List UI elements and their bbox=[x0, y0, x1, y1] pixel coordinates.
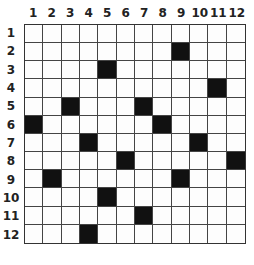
grid-cell bbox=[135, 188, 153, 206]
grid-cell bbox=[172, 79, 190, 97]
grid-cell bbox=[172, 25, 190, 43]
grid-cell bbox=[208, 25, 226, 43]
grid-cell bbox=[208, 116, 226, 134]
grid-cell bbox=[98, 116, 116, 134]
grid-cell bbox=[135, 134, 153, 152]
row-label: 4 bbox=[0, 79, 22, 97]
grid-cell bbox=[98, 25, 116, 43]
grid-cell bbox=[172, 61, 190, 79]
grid-cell bbox=[190, 61, 208, 79]
grid-cell bbox=[135, 61, 153, 79]
grid-cell bbox=[25, 61, 43, 79]
row-label: 12 bbox=[0, 226, 22, 244]
column-label: 12 bbox=[228, 4, 247, 22]
grid-cell bbox=[80, 98, 98, 116]
grid-cell bbox=[208, 170, 226, 188]
grid-cell bbox=[227, 225, 245, 243]
grid-cell bbox=[98, 152, 116, 170]
grid-cell bbox=[117, 98, 135, 116]
row-label: 7 bbox=[0, 134, 22, 152]
grid-cell bbox=[80, 152, 98, 170]
grid-cell-filled bbox=[135, 207, 153, 225]
column-label: 5 bbox=[98, 4, 117, 22]
row-labels: 123456789101112 bbox=[0, 24, 22, 244]
grid-cell bbox=[43, 43, 61, 61]
column-label: 1 bbox=[24, 4, 43, 22]
grid-cell bbox=[62, 79, 80, 97]
grid-cell bbox=[208, 225, 226, 243]
grid-cell bbox=[43, 25, 61, 43]
grid-cell bbox=[62, 25, 80, 43]
grid-cell bbox=[208, 152, 226, 170]
grid-cell bbox=[117, 207, 135, 225]
grid-cell bbox=[153, 98, 171, 116]
grid-cell bbox=[62, 170, 80, 188]
row-label: 5 bbox=[0, 97, 22, 115]
column-label: 6 bbox=[117, 4, 136, 22]
grid-cell bbox=[208, 134, 226, 152]
grid-cell bbox=[62, 207, 80, 225]
grid-cell bbox=[62, 225, 80, 243]
grid-cell bbox=[80, 188, 98, 206]
grid-cell bbox=[62, 61, 80, 79]
grid-cell bbox=[117, 79, 135, 97]
puzzle-grid bbox=[24, 24, 246, 244]
grid-cell-filled bbox=[25, 116, 43, 134]
grid-cell bbox=[153, 188, 171, 206]
grid-cell bbox=[43, 79, 61, 97]
grid-cell bbox=[80, 43, 98, 61]
grid-cell bbox=[153, 152, 171, 170]
grid-cell bbox=[80, 61, 98, 79]
grid-cell bbox=[80, 170, 98, 188]
grid-cell bbox=[98, 225, 116, 243]
grid-cell bbox=[227, 134, 245, 152]
grid-cell bbox=[190, 188, 208, 206]
grid-cell bbox=[153, 25, 171, 43]
grid-cell bbox=[25, 225, 43, 243]
column-label: 10 bbox=[191, 4, 210, 22]
grid-cell-filled bbox=[117, 152, 135, 170]
grid-cell-filled bbox=[80, 225, 98, 243]
grid-cell bbox=[190, 170, 208, 188]
grid-cell bbox=[25, 134, 43, 152]
grid-cell bbox=[153, 225, 171, 243]
grid-cell bbox=[172, 225, 190, 243]
grid-cell bbox=[227, 79, 245, 97]
grid-cell bbox=[135, 79, 153, 97]
grid-cell bbox=[98, 43, 116, 61]
grid-cell bbox=[190, 79, 208, 97]
grid-cell bbox=[190, 225, 208, 243]
grid-cell bbox=[208, 43, 226, 61]
grid-cell bbox=[43, 225, 61, 243]
grid-cell bbox=[190, 43, 208, 61]
grid-cell bbox=[172, 134, 190, 152]
grid-cell bbox=[117, 25, 135, 43]
grid-cell bbox=[135, 152, 153, 170]
grid-cell bbox=[227, 116, 245, 134]
grid-cell bbox=[117, 225, 135, 243]
grid-cell bbox=[62, 188, 80, 206]
row-label: 8 bbox=[0, 152, 22, 170]
grid-cell bbox=[62, 152, 80, 170]
grid-cell bbox=[117, 170, 135, 188]
grid-cell bbox=[98, 134, 116, 152]
row-label: 9 bbox=[0, 171, 22, 189]
grid-cell bbox=[190, 116, 208, 134]
grid-cell bbox=[135, 43, 153, 61]
grid-cell bbox=[172, 188, 190, 206]
grid-cell bbox=[98, 170, 116, 188]
grid-cell bbox=[227, 25, 245, 43]
grid-cell bbox=[208, 207, 226, 225]
grid-cell-filled bbox=[43, 170, 61, 188]
column-label: 9 bbox=[172, 4, 191, 22]
grid-cell bbox=[43, 116, 61, 134]
grid-cell-filled bbox=[80, 134, 98, 152]
grid-cell bbox=[153, 134, 171, 152]
grid-cell bbox=[25, 152, 43, 170]
grid-cell bbox=[62, 43, 80, 61]
grid-cell bbox=[208, 98, 226, 116]
grid-cell bbox=[153, 43, 171, 61]
grid-cell bbox=[172, 98, 190, 116]
grid-cell bbox=[80, 79, 98, 97]
grid-cell bbox=[153, 61, 171, 79]
